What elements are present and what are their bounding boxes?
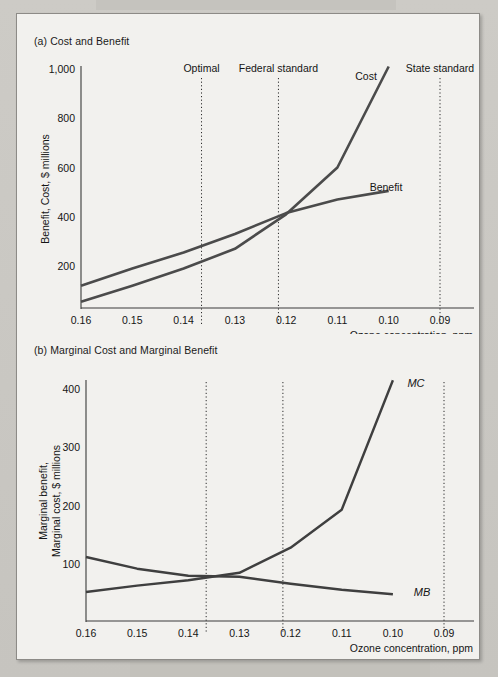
page-top-shadow xyxy=(96,0,396,10)
panel-b-y-tick-label: 400 xyxy=(62,383,80,395)
panel-b-y-axis-title-line1: Marginal benefit, xyxy=(37,462,49,540)
panel-b-chart: 4003002001000.160.150.140.130.120.110.10… xyxy=(17,14,479,659)
panel-b-x-axis-title: Ozone concentration, ppm xyxy=(350,642,473,654)
panel-b-x-tick-label: 0.09 xyxy=(434,627,455,639)
panel-b-mb-label: MB xyxy=(414,586,431,598)
panel-b-x-tick-label: 0.11 xyxy=(332,627,352,639)
panel-b-x-tick-label: 0.12 xyxy=(280,627,301,639)
page-bottom-shadow xyxy=(130,662,430,677)
figure-card: (a) Cost and Benefit OptimalFederal stan… xyxy=(16,13,480,660)
panel-b-x-tick-label: 0.14 xyxy=(178,627,199,639)
panel-b-x-tick-label: 0.16 xyxy=(76,627,97,639)
panel-b-x-tick-label: 0.15 xyxy=(127,627,148,639)
panel-b-x-tick-label: 0.13 xyxy=(229,627,250,639)
panel-b-y-tick-label: 200 xyxy=(62,500,80,512)
panel-b-mc-label: MC xyxy=(407,377,424,389)
panel-b-y-axis-title-line2: Marginal cost, $ millions xyxy=(50,445,62,557)
panel-b-y-tick-label: 100 xyxy=(62,558,80,570)
panel-b-series-mb xyxy=(86,557,393,594)
panel-b-y-tick-label: 300 xyxy=(62,441,80,453)
panel-b-x-tick-label: 0.10 xyxy=(383,627,404,639)
panel-b-series-mc xyxy=(86,380,393,592)
